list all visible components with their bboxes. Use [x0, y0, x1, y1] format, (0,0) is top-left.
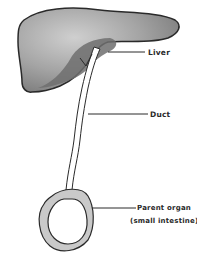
label-parent-organ: Parent organ	[137, 204, 191, 212]
label-small-intestine: (small intestine)	[130, 217, 197, 225]
label-duct: Duct	[150, 110, 170, 119]
parent-organ-ring	[39, 189, 93, 251]
label-liver: Liver	[148, 48, 170, 57]
